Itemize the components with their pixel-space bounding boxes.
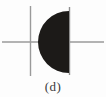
figure-caption: (d): [0, 76, 106, 97]
figure-panel: (d): [0, 0, 106, 97]
half-disk-diagram: [0, 0, 106, 78]
half-disk-region: [38, 11, 69, 73]
figure-drawing-area: [0, 0, 106, 78]
